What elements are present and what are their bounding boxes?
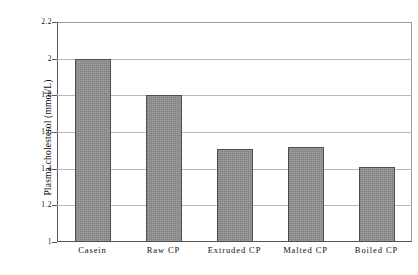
x-tick-label: Extruded CP [199, 245, 270, 255]
x-tick-label: Raw CP [128, 245, 199, 255]
bar-chart-figure: Plasma cholesterol (mmol/L) 2.221.81.61.… [0, 0, 418, 275]
bar-slot [57, 22, 128, 242]
bar-raw-cp[interactable] [146, 95, 182, 242]
y-tick-label: 1.6 [18, 128, 52, 136]
bar-slot [270, 22, 341, 242]
y-tick-label: 2 [18, 55, 52, 63]
bar-malted-cp[interactable] [288, 147, 324, 242]
x-tick-label: Casein [57, 245, 128, 255]
y-tick-label: 2.2 [18, 18, 52, 26]
y-tick-label: 1.4 [18, 165, 52, 173]
y-tick-mark [52, 242, 57, 243]
y-tick-label: 1 [18, 238, 52, 246]
x-tick-label: Malted CP [270, 245, 341, 255]
bar-slot [199, 22, 270, 242]
bar-slot [128, 22, 199, 242]
bar-casein[interactable] [75, 59, 111, 242]
y-tick-label: 1.8 [18, 91, 52, 99]
bar-extruded-cp[interactable] [217, 149, 253, 243]
x-tick-label: Boiled CP [341, 245, 412, 255]
y-tick: 1 [0, 242, 418, 243]
bars-layer [57, 22, 412, 242]
bar-slot [341, 22, 412, 242]
x-axis-labels: CaseinRaw CPExtruded CPMalted CPBoiled C… [57, 245, 412, 265]
y-tick-label: 1.2 [18, 201, 52, 209]
bar-boiled-cp[interactable] [359, 167, 395, 242]
